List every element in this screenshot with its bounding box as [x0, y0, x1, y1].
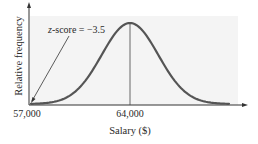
z-score-annotation: z-score = −3.5 [47, 24, 105, 35]
x-axis-label: Salary ($) [109, 125, 151, 137]
y-axis-label: Relative frequency [13, 15, 24, 95]
x-tick-label-57000: 57,000 [13, 108, 41, 119]
x-tick-label-64000: 64,000 [116, 108, 144, 119]
chart-svg: z-score = −3.5 Relative frequency 57,000… [0, 0, 258, 144]
x-axis-arrow-icon [242, 103, 248, 107]
z-score-text: -score = −3.5 [52, 24, 105, 35]
normal-distribution-chart: z-score = −3.5 Relative frequency 57,000… [0, 0, 258, 144]
y-axis-arrow-icon [27, 2, 31, 8]
